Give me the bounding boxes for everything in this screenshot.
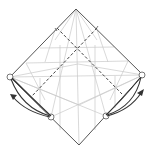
fold-arrows	[11, 77, 141, 117]
origami-diagram: Origami fold step diagram	[0, 0, 159, 151]
crease-lines	[10, 9, 143, 145]
diagram-canvas	[0, 0, 159, 151]
left-corner-circle	[7, 74, 13, 80]
arrowhead-left-icon	[10, 94, 17, 100]
arrowheads	[10, 89, 144, 100]
arrowhead-right-icon	[137, 89, 144, 96]
right-corner-circle	[139, 72, 145, 78]
